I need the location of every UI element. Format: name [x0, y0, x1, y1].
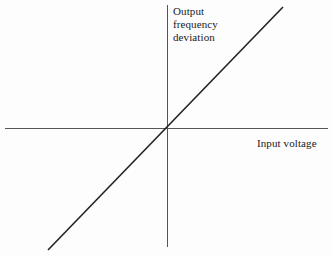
y-axis-label-line-2: frequency	[173, 18, 218, 31]
y-axis-label: Outputfrequencydeviation	[173, 5, 218, 44]
plot-canvas	[0, 0, 332, 257]
x-axis-label: Input voltage	[257, 137, 317, 150]
vco-transfer-characteristic-figure: Outputfrequencydeviation Input voltage	[0, 0, 332, 257]
y-axis-label-line-1: Output	[173, 5, 218, 18]
y-axis-label-line-3: deviation	[173, 31, 218, 44]
